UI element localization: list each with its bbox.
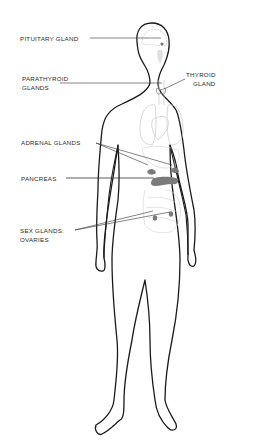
pancreas-shape (151, 177, 178, 186)
label-text: PITUITARY GLAND (20, 35, 78, 42)
body-outline (95, 23, 196, 434)
label-adrenal-glands: ADRENAL GLANDS (21, 138, 81, 147)
body-illustration (0, 0, 260, 446)
label-pituitary-gland: PITUITARY GLAND (20, 34, 78, 43)
label-pancreas: PANCREAS (21, 174, 57, 183)
endocrine-diagram: PITUITARY GLAND PARATHYROID GLANDS THYRO… (0, 0, 260, 446)
adrenal-leader-1 (96, 143, 148, 165)
left-adrenal-gland-shape (147, 169, 156, 175)
label-text: OVARIES (20, 235, 64, 244)
label-text: GLANDS (22, 83, 69, 92)
sex-glands-leader-2 (75, 212, 170, 230)
label-parathyroid-glands: PARATHYROID GLANDS (22, 74, 69, 92)
pituitary-gland-shape (160, 42, 163, 45)
intestines (143, 190, 180, 233)
thyroid-leader (164, 79, 185, 89)
label-text: ADRENAL GLANDS (21, 139, 81, 146)
label-sex-glands-ovaries: SEX GLANDS: OVARIES (20, 226, 64, 244)
label-text: PANCREAS (21, 175, 57, 182)
left-ovary-shape (153, 215, 157, 221)
left-lung (140, 105, 156, 145)
label-thyroid-gland: THYROID GLAND (186, 70, 216, 88)
label-text: SEX GLANDS: (20, 226, 64, 235)
heart (152, 116, 169, 140)
right-adrenal-gland-shape (171, 168, 179, 174)
label-text: THYROID (186, 70, 216, 79)
label-text: GLAND (186, 79, 216, 88)
brainstem-shape (157, 50, 163, 64)
label-text: PARATHYROID (22, 74, 69, 83)
